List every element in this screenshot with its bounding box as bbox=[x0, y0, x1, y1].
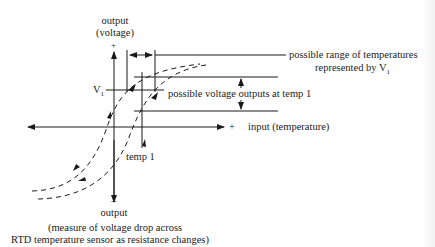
x-axis-label: input (temperature) bbox=[248, 122, 329, 133]
arrow-icon bbox=[73, 164, 80, 171]
x-plus-sign: + bbox=[229, 122, 235, 133]
y-plus-sign: + bbox=[111, 41, 116, 50]
caption-line2: RTD temperature sensor as resistance cha… bbox=[0, 235, 220, 246]
v1-text: V bbox=[93, 84, 101, 95]
arrow-icon bbox=[107, 111, 111, 119]
hysteresis-curves bbox=[32, 64, 206, 199]
temp1-label: temp 1 bbox=[126, 152, 155, 163]
curve-arrowheads bbox=[73, 84, 158, 181]
hysteresis-diagram: output (voltage) + V1 possible voltage o… bbox=[0, 0, 435, 247]
range-label-line2: represented by V1 bbox=[315, 63, 390, 76]
arrow-icon bbox=[142, 139, 146, 147]
arrow-icon bbox=[128, 84, 136, 92]
range-subscript: 1 bbox=[387, 68, 391, 76]
lower-curve bbox=[38, 65, 206, 199]
y-axis-bottom-label: output bbox=[97, 208, 131, 219]
voltage-outputs-label: possible voltage outputs at temp 1 bbox=[168, 89, 311, 100]
y-minus-sign: − bbox=[111, 197, 117, 208]
range-label-line1: possible range of temperatures bbox=[289, 50, 418, 61]
v1-subscript: 1 bbox=[101, 90, 105, 98]
page-edge-shadow bbox=[421, 0, 435, 247]
y-axis-sublabel: (voltage) bbox=[92, 28, 138, 39]
diagram-graphics bbox=[0, 0, 435, 247]
y-axis-label: output bbox=[98, 16, 132, 27]
arrow-icon bbox=[151, 92, 158, 100]
arrow-icon bbox=[78, 177, 86, 181]
v1-label: V1 bbox=[93, 85, 104, 98]
range-label-text: represented by V bbox=[315, 62, 387, 73]
caption-line1: (measure of voltage drop across bbox=[40, 223, 190, 234]
